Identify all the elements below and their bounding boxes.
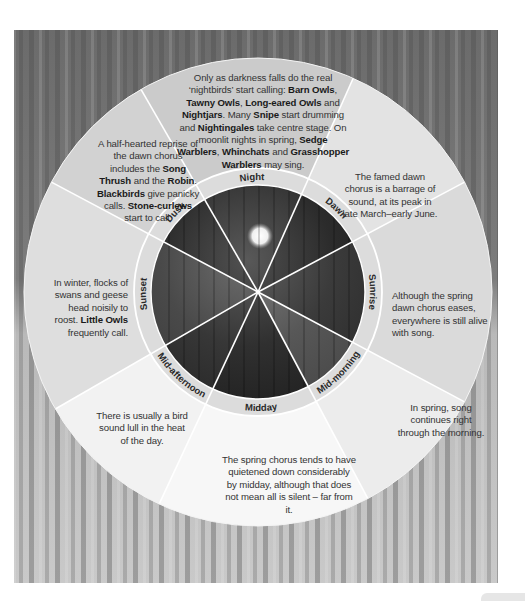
page-corner-tab [481,593,525,601]
sunrise-description: Although the spring dawn chorus eases, e… [392,290,488,340]
mid-morning-description: In spring, song continues right through … [396,402,486,439]
sunset-description: In winter, flocks of swans and geese hea… [46,277,128,339]
mid-afternoon-description: There is usually a bird sound lull in th… [96,410,188,447]
birdsong-wheel-figure: NightDawnSunriseMid-morningMiddayMid-aft… [0,0,525,601]
dawn-description: The famed dawn chorus is a barrage of so… [340,171,440,221]
night-label: Night [239,171,266,183]
midday-label: Midday [245,400,279,413]
sunset-label: Sunset [137,276,149,311]
midday-description: The spring chorus tends to have quietene… [222,454,356,516]
dusk-description: A half-hearted reprise of the dawn choru… [96,138,200,225]
night-description: Only as darkness falls do the real ‘nigh… [176,72,350,171]
